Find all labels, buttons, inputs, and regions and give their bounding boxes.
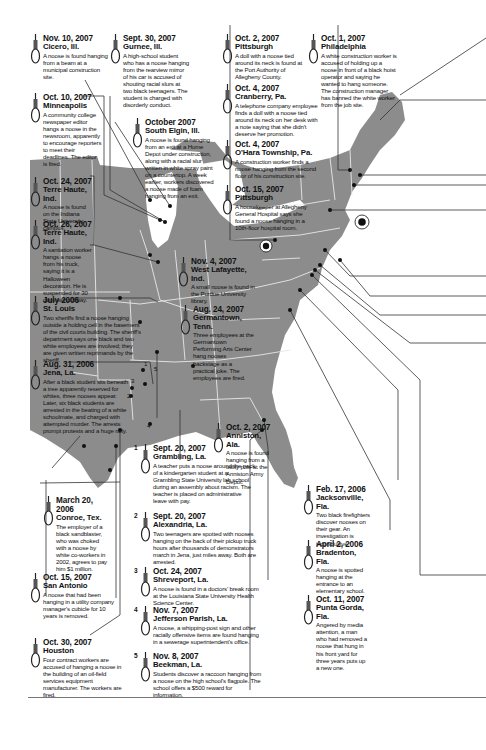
incident-date: March 20, 2006 — [56, 496, 109, 514]
noose-icon — [30, 34, 41, 64]
incident-description: A telephone company employee finds a dol… — [235, 102, 322, 137]
noose-icon — [303, 595, 314, 625]
noose-icon — [30, 638, 41, 668]
incident-description: A white construction worker is accused o… — [321, 52, 398, 109]
noose-icon — [178, 257, 189, 287]
incident-city: Terre Haute, Ind. — [43, 229, 92, 246]
incident-south-elgin: October 2007South Elgin, Ill.A noose is … — [132, 118, 214, 199]
incident-city: Germantown, Tenn. — [193, 314, 254, 331]
incident-city: Pittsburgh — [235, 194, 314, 203]
incident-description: Three employees at the Germantown Perfor… — [193, 331, 254, 381]
incident-description: A noose, a whipping-post sign and other … — [153, 624, 262, 645]
incident-city: Cicero, Ill. — [43, 43, 110, 52]
incident-city: Shreveport, La. — [153, 576, 262, 585]
incident-description: Two sheriffs find a noose hanging outsid… — [43, 314, 142, 364]
noose-icon — [180, 305, 191, 335]
incident-description: A construction worker finds a noose hang… — [235, 158, 322, 179]
map-reference-number: 2 — [134, 512, 138, 519]
incident-description: A housekeeper at Allegheny General Hospi… — [235, 203, 314, 231]
incident-city: Pittsburgh — [235, 43, 310, 52]
incident-description: A small noose is found in the Purdue Uni… — [191, 283, 258, 304]
incident-description: A high-school student who has a noose ha… — [123, 52, 190, 109]
incident-description: A teacher puts a noose around the neck o… — [153, 462, 256, 505]
incident-city: Jacksonville, Fla. — [316, 494, 375, 511]
incident-germantown: Aug. 24, 2007Germantown, Tenn.Three empl… — [180, 305, 254, 381]
incident-pittsburgh-port-authority: Oct. 2, 2007PittsburghA doll with a noos… — [222, 34, 310, 80]
noose-icon — [222, 185, 233, 215]
noose-icon — [303, 540, 314, 570]
noose-icon — [222, 140, 233, 170]
incident-city: Bradenton, Fla. — [316, 549, 367, 566]
incident-jacksonville: Feb. 17, 2006Jacksonville, Fla.Two black… — [303, 485, 375, 547]
incident-description: A doll with a noose tied around its neck… — [235, 52, 310, 80]
noose-icon — [43, 496, 54, 526]
noose-icon — [30, 177, 41, 207]
map-reference-number: 4 — [134, 606, 138, 613]
map-reference-number: 5 — [134, 652, 138, 659]
incident-city: Jefferson Parish, La. — [153, 615, 262, 624]
incident-description: The employer of a black sandblaster, who… — [56, 523, 109, 573]
incident-description: After a black student sits beneath a tre… — [43, 378, 132, 435]
incident-city: Alexandria, La. — [153, 521, 262, 530]
noose-icon — [30, 93, 41, 123]
incident-gurnee: Sept. 30, 2007Gurnee, Ill.A high-school … — [110, 34, 190, 108]
incident-jena: Aug. 31, 2006Jena, La.After a black stud… — [30, 360, 132, 434]
noose-icon — [222, 34, 233, 64]
incident-description: A noose is spotted hanging at the entran… — [316, 566, 367, 594]
noose-icon — [30, 360, 41, 390]
incident-city: Minneapolis — [43, 102, 102, 111]
incident-city: Conroe, Tex. — [56, 514, 109, 523]
incident-houston: Oct. 30, 2007HoustonFour contract worker… — [30, 638, 126, 698]
incident-city: Jena, La. — [43, 369, 132, 378]
incident-st-louis: July 2006St. LouisTwo sheriffs find a no… — [30, 296, 142, 363]
incident-jefferson-parish: 4 Nov. 7, 2007Jefferson Parish, La.A noo… — [140, 606, 262, 645]
incident-city: O'Hara Township, Pa. — [235, 149, 322, 158]
incident-description: A noose is found in a doctors' break roo… — [153, 585, 262, 606]
incident-shreveport: 3 Oct. 24, 2007Shreveport, La.A noose is… — [140, 567, 262, 606]
incident-description: A sanitation worker hangs a noose from h… — [43, 246, 92, 303]
incident-city: St. Louis — [43, 305, 142, 314]
noose-icon — [140, 606, 151, 636]
incident-bradenton: April 2, 2006Bradenton, Fla.A noose is s… — [303, 540, 367, 595]
noose-icon — [132, 118, 143, 148]
incident-alexandria: 2 Sept. 20, 2007Alexandria, La.Two teena… — [140, 512, 262, 565]
incident-terre-haute-truck: Oct. 26, 2007Terre Haute, Ind.A sanitati… — [30, 220, 92, 303]
incident-city: Philadelphia — [321, 43, 398, 52]
noose-icon — [140, 444, 151, 474]
incident-cicero: Nov. 10, 2007Cicero, Ill.A noose is foun… — [30, 34, 110, 80]
incident-description: Four contract workers are accused of han… — [43, 656, 126, 699]
incident-description: A noose is found hanging from a beam at … — [43, 52, 110, 80]
incident-grambling: 1 Sept. 20, 2007Grambling, La.A teacher … — [140, 444, 256, 504]
noose-icon — [30, 296, 41, 326]
incident-city: Punta Gorda, Fla. — [316, 604, 367, 621]
incident-description: A noose that had been hanging in a utili… — [43, 591, 116, 619]
incident-description: Two teenagers are spotted with nooses ha… — [153, 530, 262, 565]
noose-icon — [222, 84, 233, 114]
incident-city: South Elgin, Ill. — [145, 127, 214, 136]
incident-minneapolis: Oct. 10, 2007MinneapolisA community coll… — [30, 93, 102, 167]
noose-icon — [308, 34, 319, 64]
incident-description: A community college newspaper editor han… — [43, 111, 102, 168]
incident-description: Angered by media attention, a man who ha… — [316, 621, 367, 671]
incident-cranberry: Oct. 4, 2007Cranberry, Pa.A telephone co… — [222, 84, 322, 137]
map-reference-number: 3 — [134, 567, 138, 574]
map-reference-number: 1 — [134, 444, 138, 451]
noose-icon — [110, 34, 121, 64]
noose-icon — [30, 220, 41, 250]
noose-icon — [303, 485, 314, 515]
incident-city: West Lafayette, Ind. — [191, 266, 258, 283]
noose-icon — [140, 567, 151, 597]
incident-description: Students discover a raccoon hanging from… — [153, 670, 262, 698]
incident-city: Houston — [43, 647, 126, 656]
incident-ohara-township: Oct. 4, 2007O'Hara Township, Pa.A constr… — [222, 140, 322, 179]
incident-city: Gurnee, Ill. — [123, 43, 190, 52]
incident-conroe: March 20, 2006Conroe, Tex.The employer o… — [43, 496, 109, 572]
incident-city: Beekman, La. — [153, 661, 262, 670]
noose-icon — [30, 573, 41, 603]
incident-west-lafayette: Nov. 4, 2007West Lafayette, Ind.A small … — [178, 257, 258, 304]
incident-punta-gorda: Oct. 11, 2007Punta Gorda, Fla.Angered by… — [303, 595, 367, 671]
incident-pittsburgh-hospital: Oct. 15, 2007PittsburghA housekeeper at … — [222, 185, 314, 231]
noose-icon — [140, 652, 151, 682]
incident-description: A noose is found hanging from an exit at… — [145, 136, 214, 200]
incident-beekman: 5 Nov. 8, 2007Beekman, La.Students disco… — [140, 652, 262, 698]
